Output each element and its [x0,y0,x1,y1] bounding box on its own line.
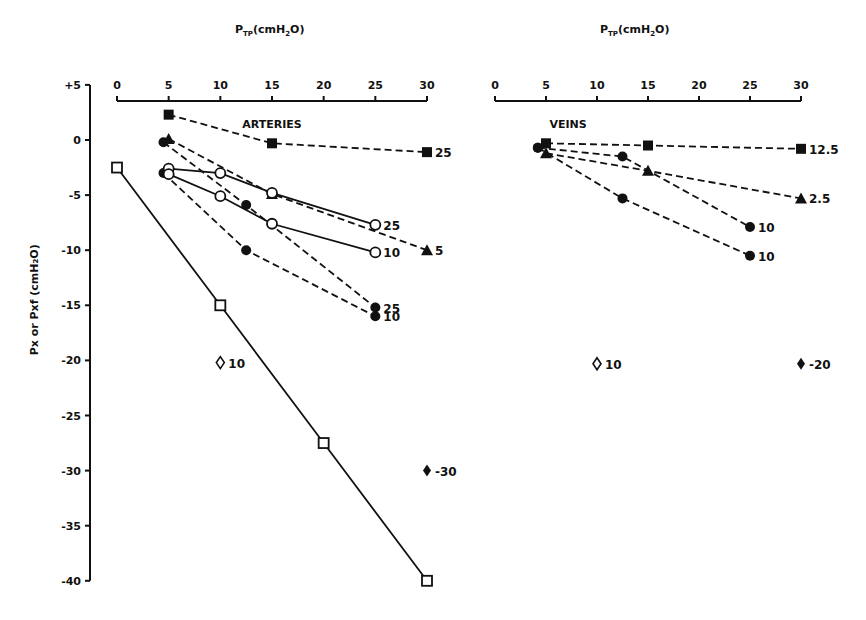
y-tick-label: -15 [61,299,81,312]
x-axis-label: PTP(cmH2O) [600,23,669,38]
series-filled-triangle-2-5 [546,153,801,198]
y-tick-label: -20 [61,354,81,367]
x-tick-label: 0 [113,79,121,92]
y-tick-label: -10 [61,244,81,257]
data-layer: 2552510251010-3012.52.5101010-20 [112,110,839,586]
veins-title: VEINS [549,118,586,131]
x-tick-label: 10 [213,79,229,92]
axes-layer: +50-5-10-15-20-25-30-35-40Px or Pxf (cmH… [28,23,809,588]
open-circle-marker [215,191,225,201]
series-line [546,143,801,149]
series-line [538,148,750,227]
point-label: 10 [383,310,400,324]
series-filled-circle-10-upper- [538,148,750,227]
point-label: -30 [435,465,457,479]
x-tick-label: 15 [264,79,279,92]
y-tick-label: -25 [61,410,81,423]
x-tick-label: 20 [316,79,332,92]
open-circle-marker [267,219,277,229]
x-tick-label: 20 [691,79,707,92]
y-tick-label: -5 [69,189,81,202]
x-axis-label: PTP(cmH2O) [235,23,304,38]
point-label: 10 [383,246,400,260]
filled-square-marker [267,138,277,148]
open-diamond-marker [593,358,601,370]
point-label: 10 [605,358,622,372]
x-tick-label: 0 [491,79,499,92]
x-tick-label: 15 [640,79,655,92]
open-square-marker [215,300,225,310]
series-filled-triangle-5 [169,139,427,250]
y-tick-label: -35 [61,520,81,533]
point-label: 2.5 [809,192,830,206]
x-tick-label: 25 [742,79,757,92]
open-circle-marker [164,169,174,179]
filled-circle-marker [618,152,628,162]
x-tick-label: 5 [542,79,550,92]
x-tick-label: 30 [419,79,435,92]
point-label: 10 [758,221,775,235]
open-circle-marker [370,220,380,230]
y-tick-label: -30 [61,465,81,478]
y-tick-label: 0 [73,134,81,147]
series-line [169,174,376,252]
filled-square-marker [164,110,174,120]
open-square-marker [422,576,432,586]
filled-diamond-marker [423,465,431,477]
point-label: 25 [435,146,452,160]
filled-circle-marker [533,143,543,153]
filled-circle-marker [745,222,755,232]
point-label: -20 [809,358,831,372]
filled-triangle-marker [421,244,433,255]
open-diamond-marker [216,357,224,369]
filled-circle-marker [159,137,169,147]
series-filled-square-12-5 [546,143,801,149]
open-circle-marker [267,188,277,198]
y-axis-label: Px or Pxf (cmH₂O) [28,244,41,355]
x-tick-label: 30 [793,79,809,92]
series-open-circle-10 [169,174,376,252]
arteries-title: ARTERIES [242,118,302,131]
x-tick-label: 5 [165,79,173,92]
point-label: 10 [228,357,245,371]
series-line [546,153,801,198]
filled-circle-marker [241,245,251,255]
filled-square-marker [643,141,653,151]
chart-figure: +50-5-10-15-20-25-30-35-40Px or Pxf (cmH… [0,0,866,620]
x-tick-label: 25 [368,79,383,92]
point-label: 25 [383,219,400,233]
open-circle-marker [215,168,225,178]
point-label: 10 [758,250,775,264]
open-square-marker [112,163,122,173]
series-filled-circle-10-lower- [538,148,750,256]
series-line [538,148,750,256]
point-label: 12.5 [809,143,839,157]
filled-circle-marker [370,303,380,313]
open-square-marker [319,438,329,448]
filled-circle-marker [241,200,251,210]
open-circle-marker [370,247,380,257]
filled-square-marker [422,147,432,157]
series-line [169,139,427,250]
filled-diamond-marker [797,358,805,370]
point-label: 5 [435,244,443,258]
filled-circle-marker [745,251,755,261]
x-tick-label: 10 [589,79,605,92]
y-tick-label: +5 [64,79,81,92]
filled-circle-marker [618,193,628,203]
y-tick-label: -40 [61,575,81,588]
filled-square-marker [796,144,806,154]
filled-circle-marker [370,311,380,321]
